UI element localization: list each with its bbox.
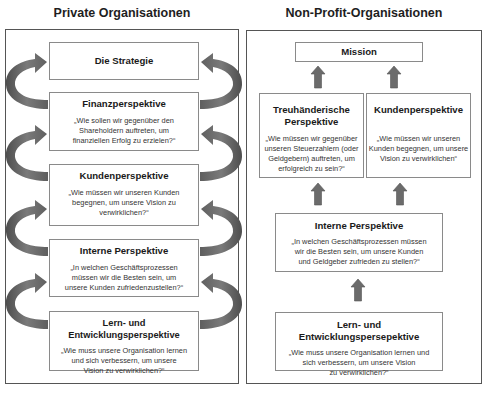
up-arrows-right-panel xyxy=(0,0,484,395)
up-arrow-icon xyxy=(351,279,365,301)
up-arrow-icon xyxy=(311,183,325,205)
up-arrow-icon xyxy=(387,66,401,88)
up-arrow-icon xyxy=(393,183,407,205)
up-arrow-icon xyxy=(311,66,325,88)
